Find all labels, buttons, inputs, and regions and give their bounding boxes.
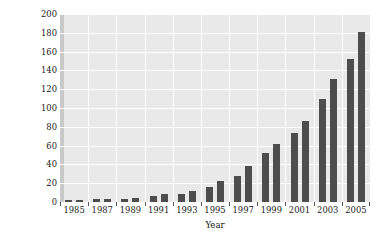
bar[interactable] [262,153,269,202]
bar[interactable] [189,191,196,202]
y-axis-tick-label: 100 [30,104,57,112]
y-axis-tick-label: 160 [30,47,57,55]
y-axis-tick-label: 120 [30,85,57,93]
x-axis-tick-label: 2005 [345,206,366,214]
bar[interactable] [302,121,309,202]
y-axis-tick-label: 0 [30,198,57,206]
x-axis-tick-label: 1987 [92,206,113,214]
bar[interactable] [161,194,168,202]
bar[interactable] [206,187,213,202]
bar[interactable] [273,144,280,202]
y-axis-tick-label: 140 [30,66,57,74]
bar[interactable] [347,59,354,202]
x-axis-tick-labels: 1985198719891991199319951997199920012003… [60,206,370,220]
y-axis-tick-label: 80 [30,123,57,131]
y-axis-tick-label: 20 [30,179,57,187]
y-axis-tick-label: 40 [30,160,57,168]
x-axis-tick-label: 2001 [289,206,310,214]
bar[interactable] [234,176,241,202]
x-axis-tick-label: 2003 [317,206,338,214]
x-axis-title: Year [60,221,370,230]
x-axis-tick-label: 1999 [261,206,282,214]
y-axis-tick-labels: 020406080100120140160180200 [30,14,57,202]
bar[interactable] [178,194,185,202]
bar[interactable] [319,99,326,202]
y-axis-tick-label: 60 [30,141,57,149]
bar-series [60,14,370,202]
plot-area [60,14,370,202]
bar[interactable] [358,32,365,202]
x-axis-tick-label: 1985 [63,206,84,214]
x-axis-tick-label: 1995 [204,206,225,214]
x-axis-tick-label: 1991 [148,206,169,214]
bar[interactable] [217,181,224,202]
bar[interactable] [330,79,337,202]
bar[interactable] [291,133,298,202]
x-axis-tick-label: 1993 [176,206,197,214]
x-axis-tick-label: 1989 [120,206,141,214]
x-axis-tick-label: 1997 [233,206,254,214]
chart-figure: Total number of membrane protein structu… [0,0,380,242]
y-axis-tick-label: 180 [30,29,57,37]
y-axis-tick-label: 200 [30,10,57,18]
bar[interactable] [245,166,252,202]
